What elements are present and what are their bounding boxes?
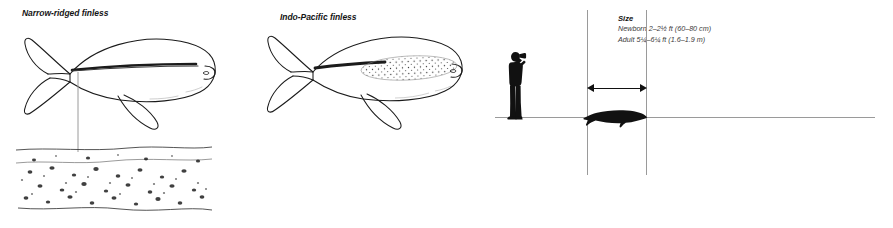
size-panel-title: Size: [618, 14, 768, 24]
waterline: [495, 117, 875, 118]
dorsal-stipple-patch: [360, 54, 457, 83]
arrow-head-right-icon: [640, 84, 647, 92]
size-row-newborn-label: Newborn: [618, 24, 647, 33]
observer-with-binoculars-figure: [498, 46, 538, 124]
size-row-newborn: Newborn2–2½ ft (60–80 cm): [618, 24, 768, 35]
illustration-canvas: Narrow-ridged finless: [0, 0, 893, 228]
size-panel: Size Newborn2–2½ ft (60–80 cm) Adult5¼–6…: [618, 14, 768, 45]
size-row-adult: Adult5¼–6¼ ft (1.6–1.9 m): [618, 35, 768, 46]
indo-pacific-finless-drawing: [245, 0, 495, 228]
finless-porpoise-silhouette: [582, 100, 654, 134]
arrow-shaft: [592, 88, 642, 89]
length-measure-arrow: [587, 84, 647, 93]
size-row-newborn-value: 2–2½ ft (60–80 cm): [649, 24, 711, 33]
size-row-adult-label: Adult: [618, 35, 634, 44]
dorsal-ridge-detail-panel: [0, 0, 230, 228]
